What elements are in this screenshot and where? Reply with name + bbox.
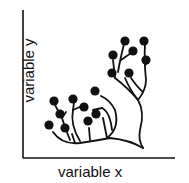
leaf-node: [141, 55, 150, 64]
x-axis-label: variable x: [58, 163, 122, 180]
leaf-node: [90, 86, 99, 95]
leaf-node: [108, 50, 117, 59]
leaf-node: [60, 123, 69, 132]
leaf-node: [124, 68, 133, 77]
leaf-node: [49, 96, 58, 105]
leaf-node: [79, 102, 88, 111]
leaf-node: [55, 109, 64, 118]
leaf-node: [107, 68, 116, 77]
leaf-node: [128, 46, 137, 55]
leaf-node: [83, 116, 92, 125]
axes: [23, 10, 175, 158]
leaf-node: [139, 36, 148, 45]
leaf-node: [44, 120, 53, 129]
leaf-nodes: [44, 36, 150, 132]
leaf-node: [68, 94, 77, 103]
y-axis-label: variable y: [20, 21, 37, 121]
leaf-node: [120, 36, 129, 45]
leaf-node: [91, 109, 100, 118]
left-tree-branches: [53, 96, 143, 148]
